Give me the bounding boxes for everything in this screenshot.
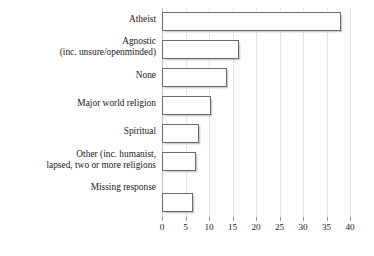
x-tick-label-2: 10: [204, 222, 213, 233]
x-tick-mark-3: [233, 217, 234, 221]
bar-spiritual[interactable]: [162, 124, 199, 143]
x-tick-mark-0: [162, 217, 163, 221]
y-axis-label-0: Atheist: [0, 14, 156, 25]
x-tick-mark-8: [350, 217, 351, 221]
bar-major-world-religion[interactable]: [162, 96, 211, 115]
gridline-25: [280, 8, 281, 217]
y-axis-label-5: Other (inc. humanist, lapsed, two or mor…: [0, 149, 156, 172]
gridline-30: [303, 8, 304, 217]
bar-agnostic[interactable]: [162, 40, 239, 59]
x-tick-label-3: 15: [228, 222, 237, 233]
y-axis-label-6: Missing response: [0, 182, 156, 193]
bar-chart: Atheist Agnostic (inc. unsure/openminded…: [0, 0, 374, 256]
x-tick-label-4: 20: [251, 222, 260, 233]
x-tick-mark-6: [303, 217, 304, 221]
x-tick-label-7: 35: [322, 222, 331, 233]
x-tick-label-5: 25: [275, 222, 284, 233]
bar-missing-response[interactable]: [162, 193, 193, 212]
plot-area: [162, 8, 350, 217]
gridline-35: [327, 8, 328, 217]
x-tick-mark-4: [256, 217, 257, 221]
bar-none[interactable]: [162, 68, 227, 87]
y-axis-label-3: Major world religion: [0, 98, 156, 109]
y-axis-label-2: None: [0, 70, 156, 81]
bar-atheist[interactable]: [162, 12, 341, 31]
x-tick-mark-2: [209, 217, 210, 221]
y-axis-label-1: Agnostic (inc. unsure/openminded): [0, 36, 156, 59]
x-tick-mark-1: [186, 217, 187, 221]
x-tick-label-0: 0: [160, 222, 165, 233]
y-axis-label-4: Spiritual: [0, 126, 156, 137]
gridline-40: [350, 8, 351, 217]
x-tick-mark-7: [327, 217, 328, 221]
x-tick-label-8: 40: [345, 222, 354, 233]
bar-other[interactable]: [162, 152, 196, 171]
x-tick-mark-5: [280, 217, 281, 221]
x-tick-label-6: 30: [298, 222, 307, 233]
gridline-20: [256, 8, 257, 217]
x-tick-label-1: 5: [183, 222, 188, 233]
